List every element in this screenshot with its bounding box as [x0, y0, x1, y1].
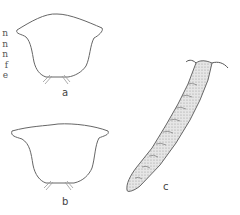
panel-a-label: a	[62, 87, 68, 98]
panel-b-label: b	[62, 196, 68, 207]
panel-c-label: c	[163, 181, 169, 192]
figure-illustration	[0, 0, 240, 215]
panel-b-outline	[12, 124, 109, 190]
panel-a-outline	[17, 14, 103, 84]
panel-c-worm	[127, 60, 228, 191]
